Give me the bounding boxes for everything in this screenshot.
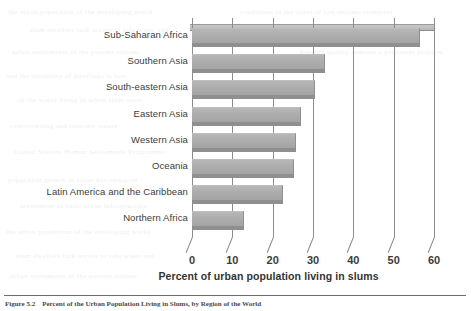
bar (192, 54, 325, 75)
category-label: South-eastern Asia (106, 81, 188, 92)
bar-fill (192, 107, 301, 122)
bar (192, 159, 294, 180)
x-axis-title: Percent of urban population living in sl… (0, 270, 471, 282)
x-tick-label: 20 (258, 254, 288, 266)
bar (192, 211, 244, 232)
gridline-perspective-foot (266, 237, 273, 253)
x-tick-label: 30 (298, 254, 328, 266)
category-label: Sub-Saharan Africa (104, 29, 188, 40)
bar-fill (192, 185, 283, 200)
bar (192, 185, 283, 206)
bar-depth-shadow (192, 200, 283, 204)
bar-depth-shadow (192, 95, 315, 99)
x-tick-label: 0 (177, 254, 207, 266)
category-label: Northern Africa (123, 212, 188, 223)
bar (192, 28, 420, 49)
bar-depth-shadow (192, 226, 244, 230)
category-label: Western Asia (131, 134, 188, 145)
bar-depth-shadow (192, 43, 420, 47)
category-label: Southern Asia (128, 55, 188, 66)
plot-area: Sub-Saharan AfricaSouthern AsiaSouth-eas… (0, 0, 471, 288)
figure-caption: Figure 5.2 Percent of the Urban Populati… (5, 300, 465, 309)
category-label: Oceania (152, 160, 188, 171)
gridline (394, 18, 395, 237)
bar-depth-shadow (192, 69, 325, 73)
bar-depth-shadow (192, 122, 301, 126)
x-tick-label: 50 (379, 254, 409, 266)
gridline-perspective-foot (226, 237, 233, 253)
bar (192, 133, 296, 154)
bar-fill (192, 211, 244, 226)
bar-fill (192, 28, 420, 43)
figure-caption-text: Percent of the Urban Population Living i… (42, 300, 261, 308)
caption-divider-rule (4, 295, 466, 296)
x-tick-label: 60 (419, 254, 449, 266)
gridline-perspective-foot (307, 237, 314, 253)
bar-chart-figure: Sub-Saharan AfricaSouthern AsiaSouth-eas… (0, 0, 471, 288)
gridline (313, 18, 314, 237)
gridline-perspective-foot (428, 237, 435, 253)
bar-depth-shadow (192, 148, 296, 152)
figure-caption-number: Figure 5.2 (5, 300, 35, 308)
bar-fill (192, 54, 325, 69)
x-tick-label: 10 (217, 254, 247, 266)
category-label: Latin America and the Caribbean (47, 186, 188, 197)
bar (192, 107, 301, 128)
gridline (434, 18, 435, 237)
gridline-perspective-foot (347, 237, 354, 253)
bar-fill (192, 133, 296, 148)
category-label: Eastern Asia (133, 108, 188, 119)
bar-fill (192, 159, 294, 174)
bar-depth-shadow (192, 174, 294, 178)
gridline (353, 18, 354, 237)
gridline-perspective-foot (186, 237, 193, 253)
gridline-perspective-foot (387, 237, 394, 253)
bar-fill (192, 80, 315, 95)
bar (192, 80, 315, 101)
x-tick-label: 40 (338, 254, 368, 266)
